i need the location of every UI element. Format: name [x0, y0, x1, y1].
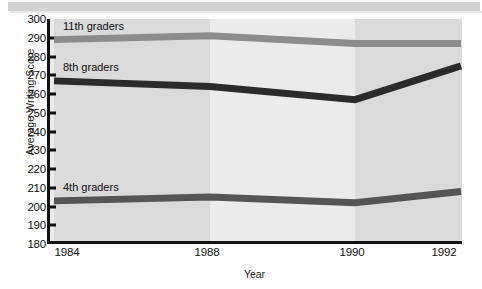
- y-tick-label: 290: [14, 32, 46, 44]
- plot-area: 11th graders8th graders4th graders: [47, 19, 462, 244]
- y-tick-label: 180: [14, 238, 46, 250]
- y-tick-label: 200: [14, 201, 46, 213]
- x-tick-label: 1988: [195, 246, 220, 258]
- x-tick-label: 1990: [340, 246, 365, 258]
- y-tick-label: 270: [14, 69, 46, 81]
- y-tick-label: 260: [14, 88, 46, 100]
- y-tick-label: 280: [14, 51, 46, 63]
- y-tick-label: 250: [14, 107, 46, 119]
- y-tick-label: 230: [14, 144, 46, 156]
- series-label: 11th graders: [63, 20, 124, 32]
- series-label: 4th graders: [63, 181, 119, 193]
- y-tick-label: 240: [14, 126, 46, 138]
- x-tick-label: 1992: [432, 246, 457, 258]
- scan-top-band: [8, 2, 480, 11]
- y-axis-tick-labels: 300290280270260250240230220210200190180: [14, 17, 46, 244]
- series-line: [54, 36, 461, 44]
- y-tick-label: 210: [14, 182, 46, 194]
- x-axis-tick-labels: 1984198819901992: [47, 246, 462, 264]
- series-label: 8th graders: [63, 61, 119, 73]
- y-tick-label: 220: [14, 163, 46, 175]
- scan-top-band-shadow: [10, 11, 482, 13]
- y-tick-label: 300: [14, 13, 46, 25]
- x-tick-label: 1984: [55, 246, 80, 258]
- x-axis-title: Year: [47, 268, 462, 280]
- chart-figure: Average Writing Score 300290280270260250…: [0, 0, 482, 289]
- series-line: [54, 192, 461, 203]
- series-lines: [50, 19, 465, 244]
- y-tick-label: 190: [14, 219, 46, 231]
